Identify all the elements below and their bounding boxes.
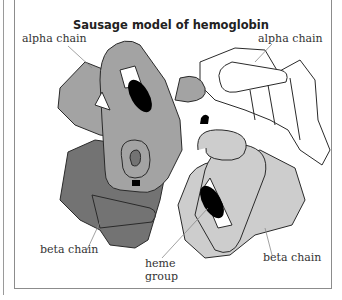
label-heme-line2: group — [145, 270, 178, 283]
diagram-title: Sausage model of hemoglobin — [0, 18, 342, 32]
label-beta-chain-left: beta chain — [40, 243, 98, 256]
label-alpha-chain-left: alpha chain — [22, 32, 87, 45]
beta-chain-right — [178, 130, 305, 258]
label-alpha-chain-right: alpha chain — [258, 32, 323, 45]
heme-group-3 — [200, 115, 209, 124]
label-beta-chain-right: beta chain — [263, 251, 321, 264]
heme-group-4 — [132, 180, 140, 186]
label-heme-line1: heme — [145, 257, 176, 270]
